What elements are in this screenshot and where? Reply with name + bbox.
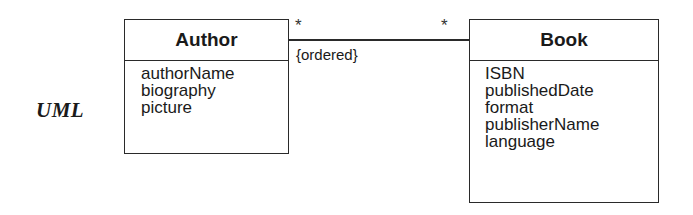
attribute: format [485,99,658,116]
uml-label: UML [36,98,84,123]
association-constraint: {ordered} [296,46,358,63]
attribute: biography [141,82,288,99]
attribute: publisherName [485,116,658,133]
multiplicity-author-end: * [295,16,302,36]
class-author-attributes: authorName biography picture [125,61,288,116]
attribute: publishedDate [485,82,658,99]
multiplicity-book-end: * [441,16,448,36]
class-author: Author authorName biography picture [124,19,289,154]
attribute: picture [141,99,288,116]
class-book: Book ISBN publishedDate format publisher… [469,19,659,203]
attribute: ISBN [485,65,658,82]
class-book-name: Book [470,20,658,61]
class-book-attributes: ISBN publishedDate format publisherName … [470,61,658,150]
attribute: language [485,133,658,150]
attribute: authorName [141,65,288,82]
association-line [289,39,469,41]
class-author-name: Author [125,20,288,61]
